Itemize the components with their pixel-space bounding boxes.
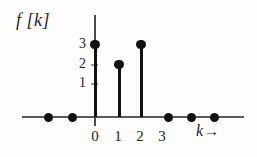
x-tick-label: 3 [154,129,170,144]
zero-sample-dot [164,113,173,122]
stem-line [140,44,143,117]
y-tick-label: 1 [72,76,86,90]
zero-sample-dot [44,113,53,122]
x-tick-label: 2 [132,129,148,144]
x-axis-label-text: k [196,122,203,139]
zero-sample-dot [187,113,196,122]
y-axis-label: f [k] [16,10,50,31]
stem-line [118,64,121,117]
x-tick-label: 0 [87,129,103,144]
y-tick-label: 3 [72,37,86,51]
zero-sample-dot [68,113,77,122]
y-tick-label: 2 [72,57,86,71]
sample-dot [114,60,124,70]
discrete-signal-stem-plot: f [k] 321 0123 k→ [0,0,257,157]
stem-line [94,44,97,117]
sample-dot [90,40,100,50]
sample-dot [136,40,146,50]
x-axis-label: k→ [196,122,219,140]
x-tick-label: 1 [110,129,126,144]
arrow-right-icon: → [204,123,219,139]
zero-sample-dot [210,113,219,122]
